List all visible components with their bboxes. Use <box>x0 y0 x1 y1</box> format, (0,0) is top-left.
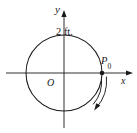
point-p0-marker <box>100 71 105 76</box>
figure-container: y x O 2 ft. P0 <box>0 0 137 133</box>
x-axis-group <box>6 70 133 75</box>
point-p0-subscript: 0 <box>107 62 111 71</box>
x-axis-arrowhead-icon <box>126 70 133 75</box>
radius-label: 2 ft. <box>56 27 73 38</box>
y-axis-label: y <box>55 4 60 15</box>
y-axis-arrowhead-icon <box>61 10 66 17</box>
diagram-canvas <box>0 0 137 133</box>
x-axis-label: x <box>121 76 125 86</box>
origin-label: O <box>47 78 54 88</box>
point-p0-label: P0 <box>101 56 111 69</box>
